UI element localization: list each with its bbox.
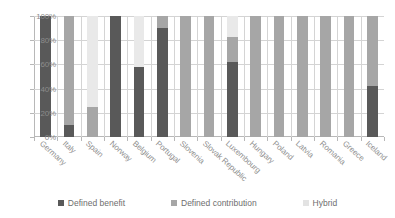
bar-portugal	[157, 16, 168, 137]
bar-germany	[40, 16, 51, 137]
legend-swatch-contribution-icon	[171, 200, 177, 206]
bar-iceland	[367, 16, 378, 137]
x-axis-label: Belgium	[131, 139, 158, 165]
y-axis-tick-label: 60%	[41, 60, 56, 69]
x-axis-label: Norway	[108, 139, 134, 163]
bar-segment-contribution	[227, 37, 238, 62]
bar-segment-contribution	[250, 16, 261, 137]
chart-legend: Defined benefitDefined contributionHybri…	[0, 196, 395, 210]
bar-segment-benefit	[367, 86, 378, 137]
legend-label: Hybrid	[313, 198, 338, 208]
bar-segment-benefit	[227, 62, 238, 137]
bar-segment-contribution	[204, 16, 215, 137]
bar-belgium	[134, 16, 145, 137]
legend-label: Defined contribution	[181, 198, 257, 208]
bar-series-group	[34, 16, 384, 137]
bar-segment-benefit	[64, 125, 75, 137]
bar-segment-contribution	[274, 16, 285, 137]
bar-luxembourg	[227, 16, 238, 137]
chart-container: 0%20%40%60%80%100% GermanyItalySpainNorw…	[0, 0, 395, 218]
bar-segment-contribution	[64, 16, 75, 125]
bar-segment-hybrid	[227, 16, 238, 37]
legend-item-hybrid[interactable]: Hybrid	[303, 198, 338, 208]
x-axis-label: Portugal	[154, 139, 182, 165]
y-axis-tick-label: 40%	[41, 84, 56, 93]
x-axis-tick	[384, 137, 385, 141]
bar-segment-benefit	[134, 67, 145, 137]
bar-hungary	[250, 16, 261, 137]
y-axis-tick-label: 100%	[36, 12, 56, 21]
bar-segment-contribution	[87, 107, 98, 137]
bar-segment-hybrid	[87, 16, 98, 107]
bar-segment-contribution	[320, 16, 331, 137]
y-axis-tick-label: 80%	[41, 36, 56, 45]
bar-segment-contribution	[180, 16, 191, 137]
chart-title	[0, 0, 395, 4]
bar-norway	[110, 16, 121, 137]
y-axis-tick-label: 20%	[41, 108, 56, 117]
bar-segment-contribution	[157, 16, 168, 28]
legend-item-contribution[interactable]: Defined contribution	[171, 198, 257, 208]
bar-segment-benefit	[157, 28, 168, 137]
bar-segment-contribution	[297, 16, 308, 137]
plot-area	[34, 16, 384, 137]
legend-item-benefit[interactable]: Defined benefit	[58, 198, 125, 208]
x-axis-label: Italy	[61, 139, 78, 155]
bar-slovak-republic	[204, 16, 215, 137]
x-axis-label: Iceland	[364, 139, 389, 162]
legend-swatch-hybrid-icon	[303, 200, 309, 206]
bar-segment-benefit	[110, 16, 121, 137]
bar-greece	[344, 16, 355, 137]
x-axis-label: Latvia	[294, 139, 315, 160]
x-axis-labels: GermanyItalySpainNorwayBelgiumPortugalSl…	[34, 139, 384, 189]
bar-latvia	[297, 16, 308, 137]
bar-segment-contribution	[367, 16, 378, 86]
bar-italy	[64, 16, 75, 137]
bar-spain	[87, 16, 98, 137]
legend-swatch-benefit-icon	[58, 200, 64, 206]
bar-poland	[274, 16, 285, 137]
bar-segment-hybrid	[134, 16, 145, 67]
legend-label: Defined benefit	[68, 198, 125, 208]
bar-slovenia	[180, 16, 191, 137]
x-axis-label: Spain	[84, 139, 105, 159]
bar-romania	[320, 16, 331, 137]
bar-segment-contribution	[344, 16, 355, 137]
bar-segment-benefit	[40, 16, 51, 137]
